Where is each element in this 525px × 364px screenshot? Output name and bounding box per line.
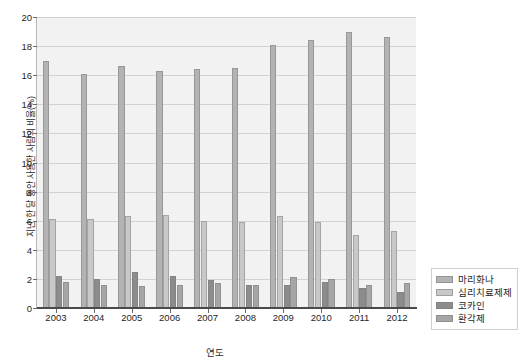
- bar: [201, 221, 207, 308]
- bar-group: [189, 17, 227, 308]
- bar: [132, 272, 138, 308]
- x-axis-title: 연도: [0, 345, 430, 359]
- x-axis-tick-mark: [359, 309, 360, 313]
- bar: [391, 231, 397, 308]
- bar-group: [75, 17, 113, 308]
- bar: [232, 68, 238, 308]
- bar: [353, 235, 359, 308]
- bar: [284, 285, 290, 308]
- legend-item[interactable]: 심리치료제제: [436, 286, 512, 299]
- y-axis-tick-label: 12: [21, 128, 32, 139]
- bar: [270, 45, 276, 308]
- bar: [43, 61, 49, 308]
- x-axis-tick-label: 2011: [349, 312, 369, 323]
- bar: [346, 32, 352, 308]
- y-axis-tick-label: 6: [27, 215, 32, 226]
- y-axis-tick-label: 18: [21, 41, 32, 52]
- bar: [253, 285, 259, 308]
- legend-item-label: 심리치료제제: [458, 288, 512, 298]
- bar: [94, 279, 100, 308]
- legend-swatch-icon: [436, 276, 453, 283]
- legend-swatch-icon: [436, 315, 453, 322]
- bar: [366, 285, 372, 308]
- bar: [194, 69, 200, 308]
- bar: [246, 285, 252, 308]
- y-axis-tick-label: 10: [21, 157, 32, 168]
- bar: [277, 216, 283, 308]
- legend-item-label: 마리화나: [458, 275, 494, 285]
- bar: [118, 66, 124, 308]
- bar: [49, 219, 55, 308]
- chart-legend: 마리화나심리치료제제코카인환각제: [431, 268, 518, 330]
- bar: [397, 292, 403, 308]
- x-axis-tick-mark: [132, 309, 133, 313]
- bar-group: [302, 17, 340, 308]
- legend-item[interactable]: 코카인: [436, 299, 512, 312]
- y-axis-tick-label: 4: [27, 244, 32, 255]
- x-axis-tick-label: 2006: [159, 312, 180, 323]
- x-axis-tick-mark: [321, 309, 322, 313]
- bar-group: [340, 17, 378, 308]
- bar-group: [113, 17, 151, 308]
- x-axis-tick-label: 2007: [197, 312, 218, 323]
- y-axis-tick-label: 20: [21, 12, 32, 23]
- x-axis-tick-label: 2009: [273, 312, 294, 323]
- plot-area: 02468101214161820: [37, 17, 416, 308]
- bar: [404, 283, 410, 308]
- y-axis-tick-label: 8: [27, 186, 32, 197]
- bar: [81, 74, 87, 308]
- legend-item-label: 코카인: [458, 301, 485, 311]
- bar: [328, 279, 334, 308]
- x-axis-tick-mark: [56, 309, 57, 313]
- bar: [101, 285, 107, 308]
- bar: [315, 222, 321, 308]
- legend-item[interactable]: 마리화나: [436, 273, 512, 286]
- bar: [384, 37, 390, 308]
- bar: [308, 40, 314, 308]
- bar: [215, 283, 221, 308]
- x-axis-tick-label: 2004: [83, 312, 104, 323]
- bar: [177, 285, 183, 308]
- y-axis-tick-label: 0: [27, 303, 32, 314]
- x-axis-tick-label: 2010: [311, 312, 332, 323]
- bar: [208, 280, 214, 308]
- x-axis-tick-mark: [208, 309, 209, 313]
- bar-group: [227, 17, 265, 308]
- x-axis-tick-label: 2005: [121, 312, 142, 323]
- legend-swatch-icon: [436, 289, 453, 296]
- y-axis-tick-label: 2: [27, 273, 32, 284]
- bar-group: [378, 17, 416, 308]
- bar: [63, 282, 69, 308]
- legend-item-label: 환각제: [458, 314, 485, 324]
- bar: [170, 276, 176, 308]
- y-axis-tick-label: 16: [21, 70, 32, 81]
- legend-swatch-icon: [436, 302, 453, 309]
- x-axis-tick-mark: [283, 309, 284, 313]
- bar: [163, 215, 169, 308]
- x-axis-tick-label: 2012: [386, 312, 407, 323]
- legend-item[interactable]: 환각제: [436, 312, 512, 325]
- x-axis-tick-label: 2003: [45, 312, 66, 323]
- y-axis-tick-label: 14: [21, 99, 32, 110]
- bar-chart: 지난 한 달 동안 사용한 사람의 비율(%) 0246810121416182…: [0, 0, 525, 364]
- x-axis-tick-label: 2008: [235, 312, 256, 323]
- bar: [359, 288, 365, 308]
- bar: [322, 282, 328, 308]
- bar: [156, 71, 162, 308]
- bar: [87, 219, 93, 308]
- bar: [125, 216, 131, 308]
- bar: [139, 286, 145, 308]
- bar: [239, 222, 245, 308]
- x-axis-tick-mark: [94, 309, 95, 313]
- bar-group: [151, 17, 189, 308]
- x-axis-tick-mark: [397, 309, 398, 313]
- bar: [56, 276, 62, 308]
- x-axis-tick-mark: [245, 309, 246, 313]
- bar: [290, 277, 296, 308]
- bar-group: [264, 17, 302, 308]
- bar-group: [37, 17, 75, 308]
- x-axis-tick-mark: [170, 309, 171, 313]
